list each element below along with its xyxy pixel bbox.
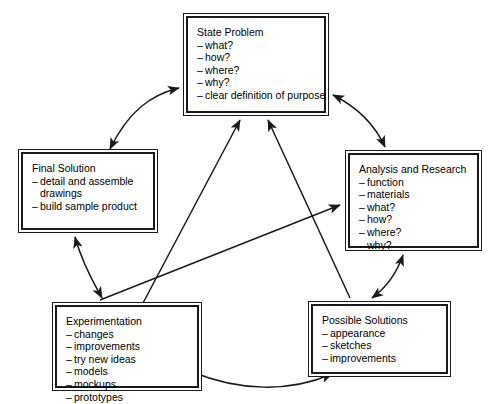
- list-item: –materials: [359, 188, 477, 201]
- list-item: –how?: [197, 51, 324, 64]
- list-item-label: mockups: [74, 378, 116, 390]
- node-analysis-and-research[interactable]: Analysis and Research –function –materia…: [345, 150, 482, 251]
- dash-marker: –: [66, 365, 74, 378]
- list-item-label: how?: [205, 51, 230, 63]
- node-final-solution-body: Final Solution –detail and assemble draw…: [21, 152, 155, 230]
- dash-marker: –: [32, 200, 40, 213]
- list-item-label: materials: [367, 188, 410, 200]
- node-experimentation-body: Experimentation –changes –improvements –…: [55, 305, 199, 388]
- node-possible-solutions-body: Possible Solutions –appearance –sketches…: [311, 304, 448, 374]
- list-item-label: try new ideas: [74, 353, 136, 365]
- list-item-label: improvements: [330, 352, 396, 364]
- list-item-label: build sample product: [40, 200, 137, 212]
- list-item-label: models: [74, 365, 108, 377]
- dash-marker: –: [359, 188, 367, 201]
- list-item: –prototypes: [66, 391, 197, 404]
- list-item: –improvements: [322, 352, 446, 365]
- node-possible-solutions-title: Possible Solutions: [322, 314, 446, 327]
- dash-marker: –: [66, 328, 74, 341]
- node-analysis-and-research-body: Analysis and Research –function –materia…: [348, 153, 479, 248]
- list-item: –where?: [359, 226, 477, 239]
- list-item-label: where?: [205, 64, 239, 76]
- connector-final-solution-experimentation: [75, 237, 102, 298]
- list-item-label: detail and assemble: [40, 175, 133, 187]
- list-item-label: what?: [205, 39, 233, 51]
- list-item: –build sample product: [32, 200, 153, 213]
- dash-marker: –: [66, 378, 74, 391]
- list-item-continuation: drawings: [32, 187, 153, 200]
- list-item-label: appearance: [330, 327, 385, 339]
- list-item: –what?: [359, 201, 477, 214]
- dash-marker: –: [322, 352, 330, 365]
- list-item-label: improvements: [74, 340, 140, 352]
- list-item-label: how?: [367, 213, 392, 225]
- node-experimentation[interactable]: Experimentation –changes –improvements –…: [52, 302, 202, 391]
- list-item: –where?: [197, 64, 324, 77]
- list-item-label: clear definition of purpose: [205, 89, 325, 101]
- node-experimentation-list: –changes –improvements –try new ideas –m…: [66, 328, 197, 404]
- list-item-label: function: [367, 176, 404, 188]
- list-item: –sketches: [322, 339, 446, 352]
- node-state-problem[interactable]: State Problem –what? –how? –where? –why?…: [183, 13, 329, 116]
- dash-marker: –: [197, 89, 205, 102]
- dash-marker: –: [32, 175, 40, 188]
- node-possible-solutions[interactable]: Possible Solutions –appearance –sketches…: [308, 301, 451, 377]
- node-experimentation-title: Experimentation: [66, 315, 197, 328]
- node-analysis-and-research-title: Analysis and Research: [359, 163, 477, 176]
- list-item: –try new ideas: [66, 353, 197, 366]
- list-item-label: changes: [74, 328, 114, 340]
- list-item: –mockups: [66, 378, 197, 391]
- dash-marker: –: [66, 340, 74, 353]
- dash-marker: –: [66, 391, 74, 404]
- dash-marker: –: [322, 327, 330, 340]
- list-item-label: why?: [205, 76, 230, 88]
- connector-state-problem-analysis: [333, 95, 385, 147]
- list-item-label: drawings: [40, 187, 82, 199]
- list-item-label: what?: [367, 201, 395, 213]
- dash-marker: –: [359, 226, 367, 239]
- list-item-label: prototypes: [74, 391, 123, 403]
- list-item-label: sketches: [330, 339, 371, 351]
- node-state-problem-body: State Problem –what? –how? –where? –why?…: [186, 16, 326, 113]
- node-final-solution-title: Final Solution: [32, 162, 153, 175]
- list-item: –changes: [66, 328, 197, 341]
- connector-final-solution-state-problem: [110, 88, 179, 149]
- dash-marker: –: [66, 353, 74, 366]
- list-item: –models: [66, 365, 197, 378]
- node-possible-solutions-list: –appearance –sketches –improvements: [322, 327, 446, 365]
- dash-marker: –: [197, 76, 205, 89]
- node-state-problem-title: State Problem: [197, 26, 324, 39]
- dash-marker: –: [359, 176, 367, 189]
- list-item-label: why?: [367, 239, 392, 251]
- list-item-label: where?: [367, 226, 401, 238]
- dash-marker: –: [197, 39, 205, 52]
- list-item: –improvements: [66, 340, 197, 353]
- dash-marker: –: [322, 339, 330, 352]
- list-item: –why?: [197, 76, 324, 89]
- node-state-problem-list: –what? –how? –where? –why? –clear defini…: [197, 39, 324, 102]
- list-item: –what?: [197, 39, 324, 52]
- connector-analysis-possible-solutions: [372, 255, 403, 298]
- node-final-solution-list: –detail and assemble drawings –build sam…: [32, 175, 153, 213]
- list-item: –clear definition of purpose: [197, 89, 324, 102]
- dash-marker: –: [359, 239, 367, 252]
- dash-marker: –: [197, 64, 205, 77]
- list-item: –appearance: [322, 327, 446, 340]
- node-analysis-and-research-list: –function –materials –what? –how? –where…: [359, 176, 477, 252]
- list-item: –how?: [359, 213, 477, 226]
- list-item: –detail and assemble: [32, 175, 153, 188]
- list-item: –why?: [359, 239, 477, 252]
- diagram-canvas: State Problem –what? –how? –where? –why?…: [0, 0, 496, 404]
- dash-marker: –: [197, 51, 205, 64]
- list-item: –function: [359, 176, 477, 189]
- dash-marker: –: [359, 213, 367, 226]
- node-final-solution[interactable]: Final Solution –detail and assemble draw…: [18, 149, 158, 233]
- dash-marker: –: [359, 201, 367, 214]
- connector-possible-solutions-state-problem: [268, 120, 350, 298]
